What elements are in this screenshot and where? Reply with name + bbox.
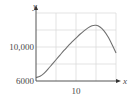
line-chart: y x 10,000 6000 10 [0,0,129,97]
axes [34,5,121,83]
y-axis-label: y [32,1,37,11]
grid [36,13,116,81]
x-tick-label-10: 10 [72,86,82,96]
x-axis-arrow-icon [116,79,121,83]
y-tick-label-10000: 10,000 [9,42,34,52]
y-tick-label-6000: 6000 [16,76,35,86]
x-axis-label: x [122,76,127,86]
